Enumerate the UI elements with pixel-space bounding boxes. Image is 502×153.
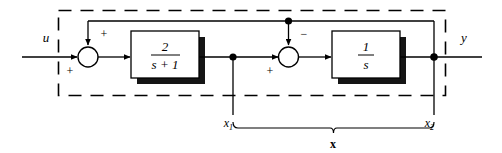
summer-2-circle: [279, 47, 299, 67]
input-label: u: [43, 30, 50, 45]
summer-2-sign-top: −: [301, 27, 308, 41]
summer-1-circle: [78, 47, 98, 67]
state-x2-subscript: 2: [430, 123, 434, 132]
block-2-numerator: 1: [363, 39, 370, 54]
state-x1-label: x1: [223, 116, 233, 132]
state-x1-subscript: 1: [229, 123, 233, 132]
block-1-denominator: s + 1: [152, 57, 179, 72]
block-2-denominator: s: [363, 57, 368, 72]
state-x2-label: x2: [424, 116, 434, 132]
summer-1-sign-top: +: [101, 27, 108, 41]
summer-2-sign-left: +: [267, 64, 274, 78]
output-label: y: [459, 30, 467, 45]
state-vector-brace: [233, 122, 434, 133]
block-1-numerator: 2: [162, 39, 169, 54]
state-vector-label: x: [330, 137, 336, 151]
block-diagram-canvas: u y + + − + 2 s + 1 1 s x1 x2 x: [0, 0, 502, 153]
block-diagram-svg: u y + + − + 2 s + 1 1 s x1 x2 x: [0, 0, 502, 153]
node-feedback-tap-dot: [285, 17, 292, 24]
summer-1-sign-left: +: [67, 64, 74, 78]
